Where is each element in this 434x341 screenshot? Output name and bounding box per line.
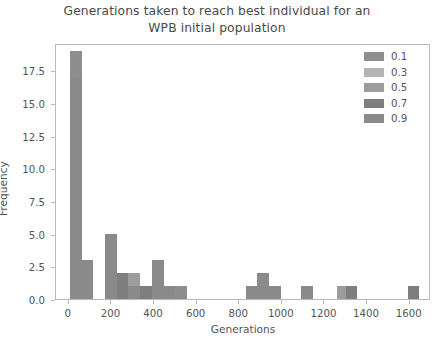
x-tick-mark: [281, 300, 282, 304]
y-tick-label: 12.5: [22, 131, 45, 142]
x-tick-label: 1200: [311, 308, 337, 319]
x-tick-label: 1400: [353, 308, 379, 319]
y-tick-label: 7.5: [29, 197, 45, 208]
legend-item[interactable]: 0.7: [364, 96, 428, 112]
chart-legend: 0.10.30.50.70.9: [364, 47, 428, 129]
legend-swatch-icon: [364, 99, 384, 108]
x-tick-mark: [323, 300, 324, 304]
y-axis: 0.02.55.07.510.012.515.017.5 Frequency: [0, 44, 55, 301]
histogram-bar: [269, 286, 281, 299]
y-tick-label: 2.5: [29, 262, 45, 273]
chart-title: Generations taken to reach best individu…: [0, 3, 434, 37]
legend-label: 0.1: [391, 51, 407, 62]
x-tick-mark: [110, 300, 111, 304]
x-tick-label: 200: [101, 308, 120, 319]
x-tick-label: 0: [65, 308, 71, 319]
legend-swatch-icon: [364, 52, 384, 61]
histogram-bar: [175, 286, 187, 299]
y-tick-label: 10.0: [22, 164, 45, 175]
legend-label: 0.9: [391, 113, 407, 124]
x-axis: 02004006008001000120014001600 Generation…: [55, 300, 431, 341]
x-tick-mark: [409, 300, 410, 304]
histogram-bar: [140, 286, 152, 299]
legend-item[interactable]: 0.9: [364, 111, 428, 127]
histogram-bar: [301, 286, 313, 299]
x-tick-label: 400: [143, 308, 162, 319]
x-tick-label: 1000: [268, 308, 294, 319]
legend-swatch-icon: [364, 68, 384, 77]
histogram-bar: [105, 234, 117, 299]
x-tick-label: 600: [186, 308, 205, 319]
chart-figure: Generations taken to reach best individu…: [0, 0, 434, 341]
y-tick-label: 17.5: [22, 66, 45, 77]
x-tick-mark: [196, 300, 197, 304]
y-tick-label: 5.0: [29, 229, 45, 240]
histogram-bar: [346, 286, 358, 299]
x-tick-mark: [366, 300, 367, 304]
legend-swatch-icon: [364, 114, 384, 123]
x-tick-label: 800: [229, 308, 248, 319]
legend-item[interactable]: 0.3: [364, 65, 428, 81]
histogram-bar: [164, 286, 176, 299]
y-tick-label: 0.0: [29, 295, 45, 306]
x-tick-mark: [238, 300, 239, 304]
legend-swatch-icon: [364, 83, 384, 92]
histogram-bar: [128, 286, 140, 299]
x-tick-mark: [68, 300, 69, 304]
histogram-bar: [117, 273, 129, 299]
legend-label: 0.7: [391, 98, 407, 109]
legend-item[interactable]: 0.1: [364, 49, 428, 65]
y-axis-label: Frequency: [0, 161, 9, 216]
histogram-bar: [70, 77, 82, 299]
histogram-bar: [246, 286, 258, 299]
x-tick-mark: [153, 300, 154, 304]
x-tick-label: 1600: [396, 308, 422, 319]
histogram-bar: [152, 260, 164, 299]
legend-label: 0.5: [391, 82, 407, 93]
histogram-bar: [408, 286, 420, 299]
legend-item[interactable]: 0.5: [364, 80, 428, 96]
x-axis-label: Generations: [55, 323, 431, 335]
histogram-bar: [257, 273, 269, 299]
legend-label: 0.3: [391, 67, 407, 78]
y-tick-label: 15.0: [22, 99, 45, 110]
histogram-bar: [82, 260, 94, 299]
